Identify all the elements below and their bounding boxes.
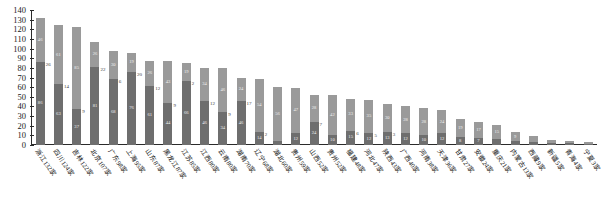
stacked-bar[interactable]: 266112 <box>145 61 154 145</box>
bar-segment-bottom[interactable]: 7 <box>474 138 483 145</box>
bar-segment-top[interactable]: 34 <box>200 68 209 101</box>
bar-segment-top[interactable]: 35 <box>364 100 373 134</box>
stacked-bar[interactable]: 54142 <box>255 79 264 145</box>
bar-segment-bottom[interactable] <box>273 141 282 145</box>
stacked-bar[interactable]: 268122 <box>90 42 99 145</box>
y-axis-tick-label: 60 <box>18 83 27 92</box>
stacked-bar[interactable] <box>529 136 538 145</box>
bar-segment-bottom[interactable] <box>547 143 556 145</box>
bar-segment-bottom[interactable] <box>492 139 501 145</box>
bar-segment-top[interactable]: 33 <box>346 99 355 131</box>
bar-segment-top[interactable]: 28 <box>310 95 319 122</box>
bar-segment-bottom[interactable]: 12 <box>401 133 410 145</box>
stacked-bar[interactable]: 56 <box>273 87 282 145</box>
stacked-bar[interactable]: 244617 <box>237 78 246 145</box>
bar-segment-top[interactable]: 85 <box>72 27 81 109</box>
bar-segment-top[interactable]: 26 <box>145 61 154 86</box>
bar-segment-top[interactable]: 30 <box>383 104 392 133</box>
bar-segment-bottom[interactable] <box>565 143 574 145</box>
stacked-bar[interactable]: 177 <box>474 122 483 145</box>
bar-segment-bottom[interactable]: 44 <box>163 103 172 145</box>
bar-segment-bottom[interactable]: 34 <box>218 112 227 145</box>
stacked-bar[interactable]: 9 <box>511 132 520 145</box>
x-axis-label-slot: 河北47家 <box>360 147 378 203</box>
bar-segment-bottom[interactable]: 68 <box>109 79 118 145</box>
stacked-bar[interactable]: 28247 <box>310 95 319 145</box>
stacked-bar[interactable] <box>584 142 593 145</box>
stacked-bar[interactable]: 43449 <box>163 61 172 145</box>
bar-segment-bottom[interactable]: 14 <box>255 132 264 146</box>
bar-segment-top[interactable]: 54 <box>255 79 264 131</box>
stacked-bar[interactable]: 85379 <box>72 27 81 145</box>
stacked-bar[interactable]: 2812 <box>401 106 410 145</box>
stacked-bar[interactable]: 2810 <box>419 108 428 145</box>
bar-segment-bottom[interactable]: 8 <box>456 137 465 145</box>
bar-segment-bottom[interactable]: 81 <box>90 67 99 145</box>
bar-segment-top[interactable]: 46 <box>218 68 227 112</box>
stacked-bar[interactable]: 4210 <box>328 95 337 145</box>
bar-segment-bottom[interactable]: 37 <box>72 109 81 145</box>
stacked-bar[interactable]: 198 <box>456 119 465 145</box>
x-axis-label-slot: 辽宁68家 <box>250 147 268 203</box>
stacked-bar[interactable]: 468626 <box>36 18 45 145</box>
bar-segment-top[interactable]: 28 <box>419 108 428 135</box>
stacked-bar[interactable]: 19662 <box>182 63 191 145</box>
bar-segment-bottom[interactable]: 46 <box>200 101 209 145</box>
stacked-bar[interactable] <box>547 140 556 145</box>
bar-segment-value: 37 <box>74 125 79 130</box>
bar-slot: 244617 <box>232 10 250 145</box>
bar-segment-top[interactable]: 42 <box>328 95 337 136</box>
bar-segment-top[interactable]: 19 <box>127 53 136 71</box>
bar-segment-top[interactable]: 24 <box>437 110 446 133</box>
bar-segment-bottom[interactable] <box>511 141 520 145</box>
bar-segment-top[interactable]: 28 <box>401 106 410 133</box>
bar-segment-top[interactable]: 9 <box>511 132 520 141</box>
bar-segment-value: 13 <box>385 136 390 141</box>
stacked-bar[interactable] <box>565 141 574 145</box>
bar-segment-bottom[interactable]: 13 <box>383 132 392 145</box>
stacked-bar[interactable]: 2412 <box>437 110 446 145</box>
bar-segment-bottom[interactable]: 86 <box>36 62 45 145</box>
bar-segment-bottom[interactable]: 12 <box>291 133 300 145</box>
stacked-bar[interactable]: 15 <box>492 125 501 145</box>
bar-segment-bottom[interactable]: 10 <box>328 135 337 145</box>
bar-segment-bottom[interactable]: 61 <box>145 86 154 145</box>
stacked-bar[interactable]: 30133 <box>383 104 392 145</box>
stacked-bar[interactable]: 33156 <box>346 99 355 145</box>
bar-segment-bottom[interactable]: 63 <box>54 84 63 145</box>
bar-slot <box>579 10 597 145</box>
bar-segment-top[interactable]: 26 <box>90 42 99 67</box>
bar-segment-value: 10 <box>330 138 335 143</box>
bar-segment-top[interactable]: 24 <box>237 78 246 101</box>
bar-segment-bottom[interactable]: 12 <box>437 133 446 145</box>
stacked-bar[interactable]: 35125 <box>364 100 373 145</box>
bar-segment-bottom[interactable]: 15 <box>346 131 355 145</box>
bar-segment-bottom[interactable]: 24 <box>310 122 319 145</box>
stacked-bar[interactable]: 616314 <box>54 25 63 145</box>
bar-segment-bottom[interactable]: 66 <box>182 81 191 145</box>
bar-segment-top[interactable]: 46 <box>36 18 45 62</box>
bar-segment-top[interactable]: 30 <box>109 51 118 80</box>
stacked-bar[interactable]: 4712 <box>291 88 300 145</box>
bar-segment-bottom[interactable]: 76 <box>127 72 136 145</box>
stacked-bar[interactable]: 197620 <box>127 53 136 145</box>
bar-segment-top[interactable]: 56 <box>273 87 282 141</box>
bar-segment-bottom[interactable] <box>584 144 593 145</box>
bar-segment-value: 81 <box>93 104 98 109</box>
bar-segment-bottom[interactable] <box>529 142 538 145</box>
stacked-bar[interactable]: 344612 <box>200 68 209 145</box>
bar-segment-top[interactable]: 15 <box>492 125 501 139</box>
bar-segment-top[interactable]: 61 <box>54 25 63 84</box>
y-axis-tick-label: 20 <box>18 121 27 130</box>
bar-segment-top[interactable]: 19 <box>456 119 465 137</box>
bar-segment-bottom[interactable]: 12 <box>364 133 373 145</box>
stacked-bar[interactable]: 46349 <box>218 68 227 145</box>
stacked-bar[interactable]: 30686 <box>109 51 118 145</box>
x-axis-label-slot: 内蒙古13家 <box>506 147 524 203</box>
bar-segment-bottom[interactable]: 46 <box>237 101 246 145</box>
bar-segment-top[interactable]: 17 <box>474 122 483 138</box>
bar-segment-bottom[interactable]: 10 <box>419 135 428 145</box>
bar-segment-top[interactable]: 43 <box>163 61 172 102</box>
bar-segment-top[interactable]: 47 <box>291 88 300 133</box>
bar-segment-top[interactable]: 19 <box>182 63 191 81</box>
